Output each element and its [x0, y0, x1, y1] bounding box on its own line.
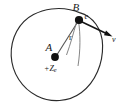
label-nucleus-charge-sub: e — [54, 66, 57, 73]
label-nucleus-charge: +Ze — [44, 64, 57, 74]
label-radius-r: r — [69, 32, 72, 42]
label-electron-e: e — [85, 12, 89, 21]
label-velocity-v: v — [112, 35, 116, 44]
tangent-guide-line — [78, 21, 80, 66]
label-nucleus-charge-main: +Z — [44, 64, 54, 73]
electron-dot-icon — [75, 16, 83, 24]
diagram-canvas: B e A +Ze r v — [0, 0, 125, 106]
label-center-point-a: A — [45, 41, 53, 53]
nucleus-dot-icon — [51, 53, 59, 61]
bohr-atom-diagram: B e A +Ze r v — [0, 0, 125, 106]
label-orbit-point-b: B — [73, 1, 80, 13]
